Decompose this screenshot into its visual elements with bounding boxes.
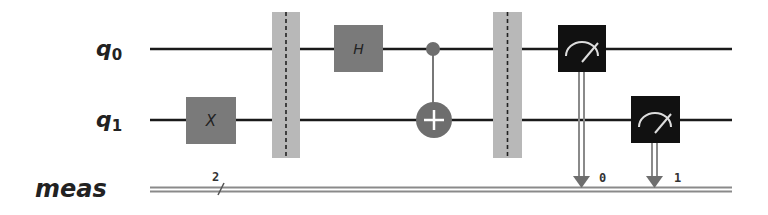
svg-text:X: X	[205, 112, 217, 130]
meas-wire	[150, 188, 732, 192]
q1-label: q1	[96, 107, 122, 135]
arrow-down-icon	[573, 176, 590, 188]
bus-slash-icon	[218, 183, 224, 195]
measure-q1[interactable]: 1	[631, 96, 681, 188]
h-gate[interactable]: H	[334, 25, 383, 72]
barrier-1	[272, 12, 300, 158]
clbit-1-label: 1	[674, 171, 681, 185]
meas-label: meas	[35, 175, 107, 203]
cx-gate[interactable]	[416, 42, 452, 138]
measure-q0[interactable]: 0	[558, 25, 606, 188]
circuit-diagram: q0 q1 meas 2 X H	[0, 0, 768, 215]
clbit-0-label: 0	[599, 171, 606, 185]
meas-width-label: 2	[212, 170, 219, 184]
control-dot-icon	[426, 42, 440, 56]
barrier-2	[493, 12, 522, 158]
svg-text:H: H	[353, 41, 364, 57]
x-gate[interactable]: X	[186, 97, 236, 144]
q0-label: q0	[96, 36, 122, 64]
arrow-down-icon	[646, 176, 663, 188]
